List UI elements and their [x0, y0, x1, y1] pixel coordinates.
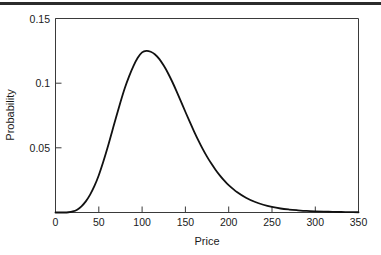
chart-svg: 0 50 100 150 200 250 300 350 0.05 0.1 0.…	[0, 0, 381, 255]
x-tick-label-200: 200	[220, 216, 238, 228]
x-axis-title: Price	[194, 235, 219, 247]
y-tick-label-01: 0.1	[35, 77, 50, 89]
x-tick-labels: 0 50 100 150 200 250 300 350	[53, 216, 368, 228]
x-tick-label-250: 250	[263, 216, 281, 228]
plot-frame	[56, 19, 359, 213]
y-axis-title: Probability	[4, 89, 16, 141]
y-tick-labels: 0.05 0.1 0.15	[30, 13, 51, 154]
x-tick-label-150: 150	[177, 216, 195, 228]
x-tick-label-0: 0	[53, 216, 59, 228]
probability-density-curve	[56, 51, 359, 213]
frame-box	[56, 19, 359, 213]
x-tick-label-300: 300	[307, 216, 325, 228]
x-tick-label-350: 350	[350, 216, 368, 228]
y-tick-label-005: 0.05	[30, 142, 51, 154]
figure-container: 0 50 100 150 200 250 300 350 0.05 0.1 0.…	[0, 0, 381, 255]
x-tick-label-100: 100	[133, 216, 151, 228]
y-tickmarks	[56, 19, 62, 148]
y-tick-label-015: 0.15	[30, 13, 51, 25]
chart-plot-area: 0 50 100 150 200 250 300 350 0.05 0.1 0.…	[0, 0, 381, 255]
x-tick-label-50: 50	[93, 216, 105, 228]
